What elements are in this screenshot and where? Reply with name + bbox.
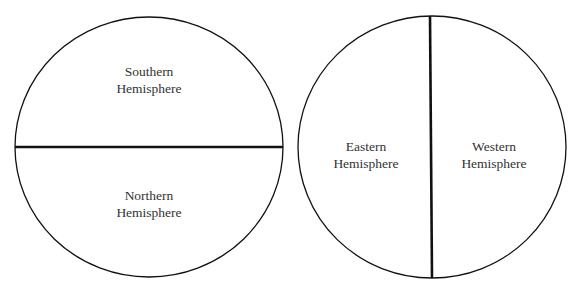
label-line: Hemisphere bbox=[94, 80, 204, 97]
western-hemisphere-label: Western Hemisphere bbox=[439, 138, 549, 172]
label-line: Eastern bbox=[311, 138, 421, 155]
label-line: Northern bbox=[94, 187, 204, 204]
prime-meridian-line bbox=[430, 16, 432, 278]
northern-hemisphere-label: Northern Hemisphere bbox=[94, 187, 204, 221]
label-line: Hemisphere bbox=[94, 204, 204, 221]
label-line: Southern bbox=[94, 63, 204, 80]
label-line: Western bbox=[439, 138, 549, 155]
label-line: Hemisphere bbox=[439, 155, 549, 172]
southern-hemisphere-label: Southern Hemisphere bbox=[94, 63, 204, 97]
label-line: Hemisphere bbox=[311, 155, 421, 172]
eastern-hemisphere-label: Eastern Hemisphere bbox=[311, 138, 421, 172]
